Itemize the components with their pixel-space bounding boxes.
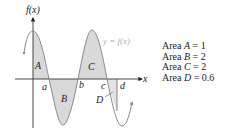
curve-end-arrow bbox=[131, 102, 133, 106]
legend-var: C bbox=[184, 61, 191, 72]
y-axis-label: f(x) bbox=[26, 4, 41, 16]
point-d-label: d bbox=[120, 80, 126, 91]
curve-label: y = f(x) bbox=[102, 36, 130, 46]
legend-value: = 1 bbox=[190, 40, 206, 51]
region-C-label: C bbox=[88, 61, 95, 72]
legend-prefix: Area bbox=[162, 72, 184, 83]
point-c-label: c bbox=[101, 80, 106, 91]
region-A-shade bbox=[33, 31, 49, 79]
x-axis-label: x bbox=[142, 73, 148, 84]
legend-prefix: Area bbox=[162, 40, 184, 51]
curve-start-dot bbox=[23, 52, 25, 54]
point-a-label: a bbox=[42, 81, 47, 92]
legend-item-area-D: Area D = 0.6 bbox=[162, 73, 214, 84]
region-D-label: D bbox=[95, 94, 104, 105]
legend-value: = 2 bbox=[191, 61, 207, 72]
legend-value: = 2 bbox=[190, 51, 206, 62]
legend-prefix: Area bbox=[162, 61, 184, 72]
area-legend: Area A = 1 Area B = 2 Area C = 2 Area D … bbox=[162, 41, 214, 83]
region-B-label: B bbox=[61, 93, 67, 104]
legend-value: = 0.6 bbox=[191, 72, 214, 83]
point-b-label: b bbox=[79, 79, 84, 90]
region-A-label: A bbox=[34, 60, 42, 71]
legend-prefix: Area bbox=[162, 51, 184, 62]
